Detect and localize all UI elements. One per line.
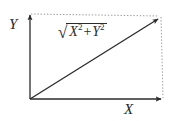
- vector-magnitude-diagram: Y X √ X2+Y2: [0, 0, 177, 121]
- guide-line-vertical: [161, 17, 163, 98]
- exponent-y: 2: [100, 22, 105, 32]
- y-axis-label: Y: [9, 17, 17, 32]
- term-y: Y: [92, 24, 100, 39]
- plus-operator: +: [82, 24, 92, 39]
- diagram-canvas: [0, 0, 177, 121]
- magnitude-formula: √ X2+Y2: [58, 23, 107, 40]
- x-axis-label: X: [124, 102, 133, 117]
- term-x: X: [69, 24, 78, 39]
- radical-sign-icon: √: [58, 24, 67, 41]
- radicand-expression: X2+Y2: [66, 23, 106, 39]
- guide-line-horizontal: [31, 14, 159, 16]
